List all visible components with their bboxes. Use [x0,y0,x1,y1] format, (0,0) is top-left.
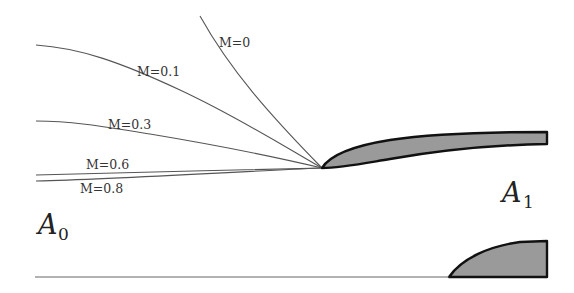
label-m0: M=0 [219,35,250,50]
lower-center-body [449,241,547,277]
a1-symbol: A [499,177,522,208]
a0-symbol: A [35,209,58,240]
label-m06: M=0.6 [86,157,129,172]
label-a0: A 0 [35,209,69,244]
a0-subscript: 0 [58,224,69,244]
streamline-m06 [36,168,322,175]
upper-cowl-body [322,132,547,168]
label-m01: M=0.1 [137,64,180,79]
streamline-m08 [36,168,322,181]
inlet-flow-diagram: M=0 M=0.1 M=0.3 M=0.6 M=0.8 A 0 A 1 [0,0,574,293]
a1-subscript: 1 [523,192,534,212]
label-m08: M=0.8 [80,181,123,196]
label-a1: A 1 [499,177,534,212]
streamline-m03 [36,121,322,168]
label-m03: M=0.3 [108,117,151,132]
